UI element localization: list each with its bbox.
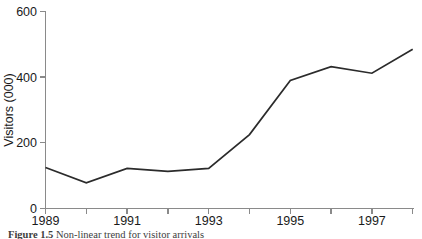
x-axis-tick-labels: 1989 1991 1993 1995 1997 (32, 214, 386, 225)
line-chart: 600 400 200 0 Visitors (000) (0, 0, 422, 225)
y-tick-label-400: 400 (16, 71, 37, 85)
figure-caption: Figure 1.5 Non-linear trend for visitor … (8, 229, 422, 239)
chart-svg: 600 400 200 0 Visitors (000) (0, 0, 422, 225)
y-tick-label-200: 200 (16, 136, 37, 150)
caption-text: Non-linear trend for visitor arrivals (56, 229, 204, 239)
y-tick-label-600: 600 (16, 5, 37, 19)
x-tick-label-1989: 1989 (32, 214, 60, 225)
y-axis-title: Visitors (000) (2, 73, 16, 146)
x-tick-label-1993: 1993 (195, 214, 223, 225)
y-axis-ticks (40, 12, 46, 209)
caption-label: Figure 1.5 (8, 229, 53, 239)
y-axis-tick-labels: 600 400 200 0 (16, 5, 37, 216)
data-series-line (46, 49, 413, 183)
x-tick-label-1995: 1995 (276, 214, 304, 225)
x-tick-label-1991: 1991 (113, 214, 141, 225)
figure-container: 600 400 200 0 Visitors (000) (0, 0, 422, 239)
x-tick-label-1997: 1997 (358, 214, 386, 225)
